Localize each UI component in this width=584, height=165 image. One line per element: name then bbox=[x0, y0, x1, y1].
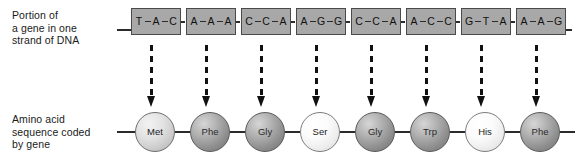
arrow-head bbox=[147, 96, 155, 107]
dna-base: G bbox=[464, 16, 475, 27]
dna-base: A bbox=[189, 16, 200, 27]
dna-base: A bbox=[498, 16, 509, 27]
dna-base: G bbox=[333, 16, 344, 27]
codon-connector bbox=[291, 21, 295, 23]
arrow-head bbox=[367, 96, 375, 107]
codon-box: AAG bbox=[516, 8, 566, 35]
amino-acid-circle: Trp bbox=[410, 112, 450, 152]
peptide-bond-line bbox=[450, 131, 465, 133]
dna-base: A bbox=[223, 16, 234, 27]
arrow-head bbox=[532, 96, 540, 107]
codon-box: ACC bbox=[406, 8, 456, 35]
dna-base: A bbox=[206, 16, 217, 27]
translation-arrow-icon bbox=[422, 45, 431, 108]
genetic-code-diagram: Portion of a gene in one strand of DNA A… bbox=[0, 0, 584, 165]
arrow-shaft bbox=[205, 45, 208, 97]
codon-connector bbox=[236, 21, 240, 23]
dna-strand-caption: Portion of a gene in one strand of DNA bbox=[12, 9, 120, 47]
peptide-bond-line bbox=[230, 131, 245, 133]
dna-base: A bbox=[409, 16, 420, 27]
dna-base: C bbox=[168, 16, 179, 27]
codon-connector bbox=[511, 21, 515, 23]
arrow-shaft bbox=[315, 45, 318, 97]
dna-base: T bbox=[134, 16, 145, 27]
amino-acid-label: Phe bbox=[532, 127, 549, 137]
translation-arrow-icon bbox=[147, 45, 156, 108]
arrow-head bbox=[477, 96, 485, 107]
translation-arrow-icon bbox=[312, 45, 321, 108]
amino-acid-sequence-caption: Amino acid sequence coded by gene bbox=[12, 113, 124, 151]
strand-leading-line bbox=[117, 29, 132, 31]
arrow-head bbox=[422, 96, 430, 107]
dna-base: C bbox=[371, 16, 382, 27]
translation-arrow-icon bbox=[532, 45, 541, 108]
dna-base: C bbox=[426, 16, 437, 27]
amino-acid-circle: Ser bbox=[300, 112, 340, 152]
dna-base: G bbox=[553, 16, 564, 27]
amino-acid-label: Ser bbox=[313, 127, 328, 137]
peptide-bond-line bbox=[285, 131, 300, 133]
dna-base: C bbox=[261, 16, 272, 27]
arrow-head bbox=[312, 96, 320, 107]
codon-box: TAC bbox=[131, 8, 181, 35]
dna-base: C bbox=[443, 16, 454, 27]
arrow-shaft bbox=[480, 45, 483, 97]
codon-box: AGG bbox=[296, 8, 346, 35]
amino-acid-label: Met bbox=[147, 127, 163, 137]
arrow-shaft bbox=[260, 45, 263, 97]
peptide-bond-line bbox=[340, 131, 355, 133]
codon-connector bbox=[456, 21, 460, 23]
amino-acid-circle: Gly bbox=[355, 112, 395, 152]
dna-base: G bbox=[316, 16, 327, 27]
amino-acid-circle: Phe bbox=[520, 112, 560, 152]
amino-acid-label: Gly bbox=[258, 127, 272, 137]
dna-base: A bbox=[151, 16, 162, 27]
peptide-bond-line bbox=[395, 131, 410, 133]
dna-base: A bbox=[519, 16, 530, 27]
codon-box: CCA bbox=[351, 8, 401, 35]
peptide-bond-line bbox=[175, 131, 190, 133]
amino-acid-label: Phe bbox=[202, 127, 219, 137]
dna-base: T bbox=[481, 16, 492, 27]
dna-base: A bbox=[278, 16, 289, 27]
translation-arrow-icon bbox=[477, 45, 486, 108]
arrow-shaft bbox=[370, 45, 373, 97]
codon-connector bbox=[346, 21, 350, 23]
dna-base: C bbox=[354, 16, 365, 27]
dna-base: A bbox=[388, 16, 399, 27]
chain-trailing-line bbox=[560, 131, 575, 133]
amino-acid-circle: Phe bbox=[190, 112, 230, 152]
codon-box: GTA bbox=[461, 8, 511, 35]
amino-acid-label: Gly bbox=[368, 127, 382, 137]
amino-acid-circle: His bbox=[465, 112, 505, 152]
arrow-shaft bbox=[425, 45, 428, 97]
amino-acid-circle: Met bbox=[135, 112, 175, 152]
codon-box: CCA bbox=[241, 8, 291, 35]
translation-arrow-icon bbox=[367, 45, 376, 108]
arrow-shaft bbox=[535, 45, 538, 97]
arrow-head bbox=[257, 96, 265, 107]
amino-acid-label: His bbox=[478, 127, 492, 137]
dna-base: A bbox=[299, 16, 310, 27]
dna-base: A bbox=[536, 16, 547, 27]
codon-box: AAA bbox=[186, 8, 236, 35]
codon-connector bbox=[181, 21, 185, 23]
peptide-bond-line bbox=[505, 131, 520, 133]
arrow-shaft bbox=[150, 45, 153, 97]
codon-connector bbox=[401, 21, 405, 23]
amino-acid-circle: Gly bbox=[245, 112, 285, 152]
dna-base: C bbox=[244, 16, 255, 27]
translation-arrow-icon bbox=[257, 45, 266, 108]
amino-acid-label: Trp bbox=[423, 127, 437, 137]
translation-arrow-icon bbox=[202, 45, 211, 108]
chain-leading-line bbox=[117, 131, 135, 133]
arrow-head bbox=[202, 96, 210, 107]
